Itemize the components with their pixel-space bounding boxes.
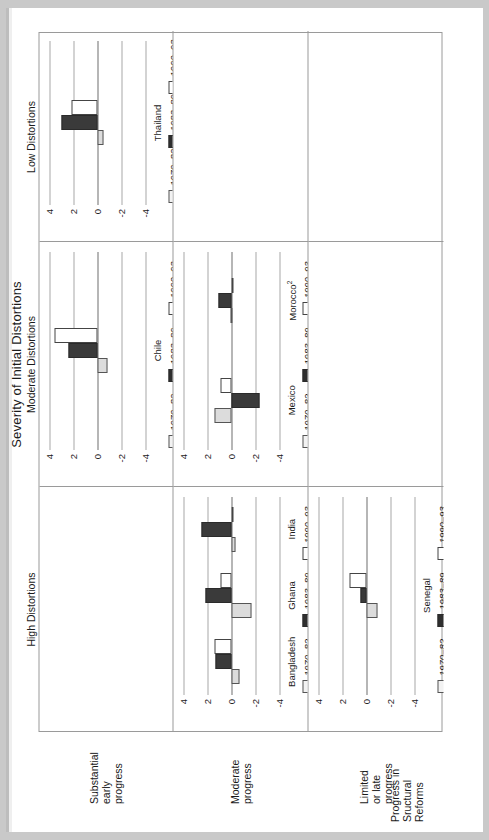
legend-swatch-black	[302, 369, 308, 382]
gridline--2	[255, 497, 256, 695]
row-super-header-line: Reforms	[412, 769, 424, 822]
legend-label: 1970–82	[436, 639, 443, 676]
column-header-1: High Distortions	[24, 572, 36, 646]
column-super-header: Severity of Initial Distortions	[8, 281, 23, 448]
bar-Mexico-1970–82	[214, 408, 231, 423]
legend-label: 1990–93	[167, 261, 173, 298]
plot-area: 420-2-4	[49, 252, 145, 450]
y-tick-label: -2	[249, 454, 260, 484]
y-tick-label: 2	[201, 454, 212, 484]
gridline-2	[342, 497, 343, 695]
legend-label: 1970–82	[301, 394, 308, 431]
legend-label: 1970–82	[301, 639, 308, 676]
gridline-4	[183, 252, 184, 450]
legend-label: 1970–82	[167, 394, 173, 431]
bar-Bangladesh-1990–93	[214, 639, 231, 654]
y-tick-label: -4	[273, 454, 284, 484]
figure-stage: Severity of Initial Distortions Progress…	[16, 12, 479, 828]
panel-chart: 420-2-4BangladeshGhanaIndia1970–821983–8…	[173, 487, 307, 731]
legend: 1970–821983–891990–93	[301, 248, 308, 450]
row-header-line: early	[99, 752, 111, 804]
bar-Thailand-1983–89	[61, 116, 97, 131]
y-tick-label: 4	[312, 699, 323, 729]
row-header-line: progress	[381, 763, 393, 804]
row-header-line: Substantial	[87, 752, 99, 804]
category-label: Thailand	[151, 105, 162, 141]
legend-swatch-black	[168, 135, 173, 148]
legend-item-1970–82: 1970–82	[167, 394, 173, 448]
legend-swatch-white	[168, 302, 173, 315]
legend-swatch-light-gray	[437, 680, 443, 693]
gridline--2	[121, 41, 122, 205]
gridline--2	[255, 252, 256, 450]
bar-Morocco-1970–82	[230, 308, 232, 323]
legend-swatch-white	[302, 302, 308, 315]
bar-Senegal-1970–82	[366, 603, 377, 618]
legend-item-1983–89: 1983–89	[301, 328, 308, 382]
y-tick-label: -4	[273, 699, 284, 729]
legend-item-1990–93: 1990–93	[167, 261, 173, 315]
y-tick-label: -2	[384, 699, 395, 729]
legend-swatch-light-gray	[302, 435, 308, 448]
column-header-3: Low Distortions	[24, 101, 36, 173]
panel-2-1: 420-2-4BangladeshGhanaIndia1970–821983–8…	[173, 486, 308, 731]
panel-chart: 420-2-4Chile1970–821983–891990–93	[39, 242, 172, 486]
category-labels: MexicoMorocco2	[285, 252, 299, 450]
panel-1-1	[39, 486, 173, 731]
legend-item-1970–82: 1970–82	[167, 149, 173, 203]
legend-item-1983–89: 1983–89	[167, 94, 173, 148]
legend-item-1983–89: 1983–89	[301, 573, 308, 627]
bar-Senegal-1983–89	[360, 588, 366, 603]
category-label: India	[285, 519, 296, 540]
legend-label: 1990–93	[436, 506, 443, 543]
panel-2-3	[173, 31, 308, 241]
legend-label: 1983–89	[167, 94, 173, 131]
y-tick-label: -4	[408, 699, 419, 729]
category-label: Senegal	[420, 578, 431, 613]
y-tick-label: 4	[43, 209, 54, 239]
column-header-2: Moderate Distortions	[24, 316, 36, 413]
y-tick-label: 4	[177, 454, 188, 484]
y-tick-label: 0	[360, 699, 371, 729]
gridline-4	[49, 41, 50, 205]
y-tick-label: 0	[91, 209, 102, 239]
y-tick-label: -2	[249, 699, 260, 729]
gridline--2	[390, 497, 391, 695]
y-tick-label: -4	[139, 454, 150, 484]
category-label: Mexico	[285, 385, 296, 415]
legend: 1970–821983–891990–93	[167, 248, 173, 450]
gridline-4	[49, 252, 50, 450]
category-label: Morocco2	[285, 281, 297, 321]
bar-Bangladesh-1970–82	[231, 669, 239, 684]
row-header-line: progress	[240, 760, 252, 804]
legend-label: 1990–93	[301, 506, 308, 543]
legend-swatch-black	[437, 614, 443, 627]
legend-item-1983–89: 1983–89	[436, 573, 443, 627]
gridline--2	[121, 252, 122, 450]
row-header-3: Limitedor lateprogress	[357, 763, 393, 804]
bar-Thailand-1990–93	[71, 101, 97, 116]
legend-item-1990–93: 1990–93	[301, 506, 308, 560]
gridline--4	[279, 252, 280, 450]
y-tick-label: 0	[225, 699, 236, 729]
category-labels: Senegal	[420, 497, 434, 695]
bar-Chile-1970–82	[97, 358, 107, 373]
legend-item-1970–82: 1970–82	[301, 394, 308, 448]
bar-Ghana-1983–89	[205, 588, 231, 603]
legend-label: 1983–89	[436, 573, 443, 610]
y-tick-label: 4	[43, 454, 54, 484]
row-header-line: Moderate	[228, 760, 240, 804]
row-super-header: Progress inSructuralReforms	[388, 769, 424, 822]
legend-label: 1990–93	[167, 40, 173, 77]
legend-label: 1983–89	[301, 573, 308, 610]
legend-swatch-light-gray	[302, 680, 308, 693]
y-tick-label: 2	[67, 454, 78, 484]
legend-swatch-black	[168, 369, 173, 382]
panel-3-3	[308, 31, 443, 241]
legend-swatch-white	[437, 547, 443, 560]
panel-chart: 420-2-4MexicoMorocco21970–821983–891990–…	[173, 242, 307, 486]
panel-2-2: 420-2-4MexicoMorocco21970–821983–891990–…	[173, 241, 308, 486]
y-tick-label: -2	[115, 209, 126, 239]
legend-item-1990–93: 1990–93	[167, 40, 173, 94]
page-sheet: Severity of Initial Distortions Progress…	[12, 8, 483, 832]
